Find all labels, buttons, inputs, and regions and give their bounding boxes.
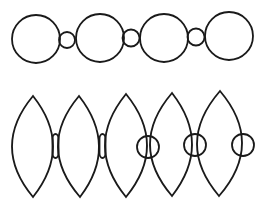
lens-shape [105,94,147,197]
lens-shape [197,91,242,196]
overlap-circle [184,134,206,156]
lens-shape [12,96,53,197]
small-circle [123,30,140,47]
diagram-canvas [0,0,264,210]
large-circle [205,12,253,60]
small-circle [59,32,75,48]
circles-and-lenses-diagram [0,0,264,210]
large-circle [140,14,188,62]
overlap-circle [137,136,159,158]
capsule-link [53,134,59,158]
capsule-link [100,134,106,158]
lens-shape [150,93,192,196]
bottom-row-lens-chain [12,91,254,197]
lens-shape [58,96,99,197]
overlap-circle [232,134,254,156]
small-circle [188,29,205,46]
large-circle [12,15,60,63]
top-row-circle-chain [12,12,253,63]
large-circle [76,14,124,62]
